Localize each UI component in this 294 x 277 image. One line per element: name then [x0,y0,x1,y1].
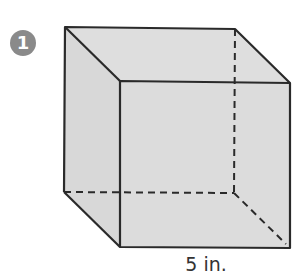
problem-figure: 1 5 in. [0,0,294,277]
cube-diagram [0,0,294,277]
dimension-label: 5 in. [160,253,252,275]
